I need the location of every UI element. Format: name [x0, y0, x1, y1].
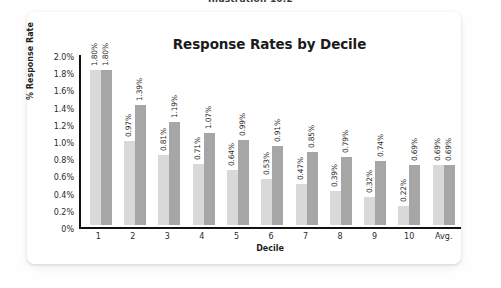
x-axis-title: Decile: [79, 244, 461, 253]
bar-response-10[interactable]: 0.22%: [398, 55, 409, 225]
bar-response-3[interactable]: 0.81%: [158, 55, 169, 225]
bar-group-6: 0.53%0.91%: [255, 55, 289, 225]
bar-group-10: 0.22%0.69%: [392, 55, 426, 225]
bar-rect: [409, 165, 420, 224]
y-tick-label: 2.0%: [54, 53, 74, 62]
bar-value-label: 1.80%: [90, 43, 99, 66]
y-axis-tick-labels: 0%0.2%0.4%0.6%0.8%1.0%1.2%1.4%1.6%1.8%2.…: [38, 57, 74, 227]
y-tick-label: 0.6%: [54, 173, 74, 182]
bar-value-label: 0.39%: [330, 164, 339, 187]
bar-rect: [193, 164, 204, 225]
bar-value-label: 0.79%: [341, 130, 350, 153]
bar-response-9[interactable]: 0.32%: [364, 55, 375, 225]
x-tick-label: 2: [116, 232, 151, 241]
x-tick-label: 4: [185, 232, 220, 241]
y-tick-label: 0%: [61, 225, 74, 234]
bar-cumulative-Avg[interactable]: 0.69%: [444, 55, 455, 225]
bar-cumulative-7[interactable]: 0.85%: [307, 55, 318, 225]
bar-rect: [444, 165, 455, 224]
bar-rect: [238, 140, 249, 225]
bar-group-9: 0.32%0.74%: [358, 55, 392, 225]
bar-rect: [124, 141, 135, 224]
page-background: Illustration 10.2 Response Rates by Deci…: [0, 0, 501, 288]
bar-value-label: 0.99%: [238, 113, 247, 136]
x-tick-label: 3: [150, 232, 185, 241]
bar-rect: [307, 152, 318, 225]
bar-rect: [135, 105, 146, 224]
bar-value-label: 1.39%: [135, 78, 144, 101]
bar-response-1[interactable]: 1.80%: [90, 55, 101, 225]
bar-cumulative-9[interactable]: 0.74%: [375, 55, 386, 225]
y-tick-label: 1.2%: [54, 121, 74, 130]
x-tick-label: Avg.: [426, 232, 461, 241]
bar-rect: [296, 184, 307, 224]
bar-group-3: 0.81%1.19%: [152, 55, 186, 225]
bar-rect: [101, 70, 112, 224]
bar-value-label: 0.81%: [159, 128, 168, 151]
bar-response-Avg[interactable]: 0.69%: [433, 55, 444, 225]
bar-rect: [272, 146, 283, 224]
bar-rect: [227, 170, 238, 225]
bar-group-5: 0.64%0.99%: [221, 55, 255, 225]
bar-value-label: 0.47%: [296, 157, 305, 180]
x-tick-label: 5: [219, 232, 254, 241]
bar-cumulative-1[interactable]: 1.80%: [101, 55, 112, 225]
bar-group-1: 1.80%1.80%: [84, 55, 118, 225]
bar-rect: [433, 165, 444, 224]
bar-value-label: 0.64%: [227, 143, 236, 166]
bar-group-Avg: 0.69%0.69%: [427, 55, 461, 225]
figure-caption: Illustration 10.2: [0, 0, 501, 4]
bar-cumulative-6[interactable]: 0.91%: [272, 55, 283, 225]
bar-value-label: 0.32%: [365, 170, 374, 193]
x-tick-label: 10: [392, 232, 427, 241]
bar-value-label: 0.53%: [262, 152, 271, 175]
y-axis-title: % Response Rate: [26, 22, 35, 100]
bar-value-label: 0.71%: [193, 137, 202, 160]
bar-response-2[interactable]: 0.97%: [124, 55, 135, 225]
bar-rect: [341, 157, 352, 225]
bar-rect: [204, 133, 215, 225]
bar-group-7: 0.47%0.85%: [289, 55, 323, 225]
x-tick-label: 1: [81, 232, 116, 241]
bar-value-label: 0.97%: [124, 115, 133, 138]
bar-value-label: 0.69%: [444, 139, 453, 162]
bar-response-6[interactable]: 0.53%: [261, 55, 272, 225]
bar-rect: [158, 155, 169, 224]
bar-rect: [398, 206, 409, 225]
bar-response-7[interactable]: 0.47%: [296, 55, 307, 225]
bar-value-label: 0.69%: [433, 139, 442, 162]
bar-group-8: 0.39%0.79%: [324, 55, 358, 225]
bar-rect: [364, 197, 375, 224]
bar-cumulative-5[interactable]: 0.99%: [238, 55, 249, 225]
bar-group-2: 0.97%1.39%: [118, 55, 152, 225]
bar-response-8[interactable]: 0.39%: [330, 55, 341, 225]
bar-group-4: 0.71%1.07%: [186, 55, 220, 225]
bar-rect: [375, 161, 386, 224]
y-tick-label: 0.2%: [54, 207, 74, 216]
y-tick-label: 1.8%: [54, 70, 74, 79]
bar-cumulative-2[interactable]: 1.39%: [135, 55, 146, 225]
bar-groups: 1.80%1.80%0.97%1.39%0.81%1.19%0.71%1.07%…: [84, 55, 462, 225]
bar-rect: [90, 70, 101, 224]
bar-cumulative-10[interactable]: 0.69%: [409, 55, 420, 225]
bar-value-label: 1.07%: [204, 106, 213, 129]
bar-cumulative-4[interactable]: 1.07%: [204, 55, 215, 225]
plot-axes: 1.80%1.80%0.97%1.39%0.81%1.19%0.71%1.07%…: [79, 55, 461, 229]
bar-value-label: 0.22%: [399, 179, 408, 202]
x-tick-label: 6: [254, 232, 289, 241]
bar-value-label: 0.85%: [307, 125, 316, 148]
bar-response-5[interactable]: 0.64%: [227, 55, 238, 225]
x-tick-label: 7: [288, 232, 323, 241]
bar-rect: [330, 191, 341, 224]
y-tick-label: 1.0%: [54, 139, 74, 148]
bar-rect: [169, 122, 180, 224]
bar-value-label: 1.80%: [101, 43, 110, 66]
bar-cumulative-3[interactable]: 1.19%: [169, 55, 180, 225]
bar-value-label: 0.91%: [273, 120, 282, 143]
y-tick-label: 0.4%: [54, 190, 74, 199]
y-tick-label: 0.8%: [54, 156, 74, 165]
bar-cumulative-8[interactable]: 0.79%: [341, 55, 352, 225]
bar-response-4[interactable]: 0.71%: [193, 55, 204, 225]
y-tick-label: 1.6%: [54, 87, 74, 96]
bar-value-label: 0.74%: [376, 134, 385, 157]
